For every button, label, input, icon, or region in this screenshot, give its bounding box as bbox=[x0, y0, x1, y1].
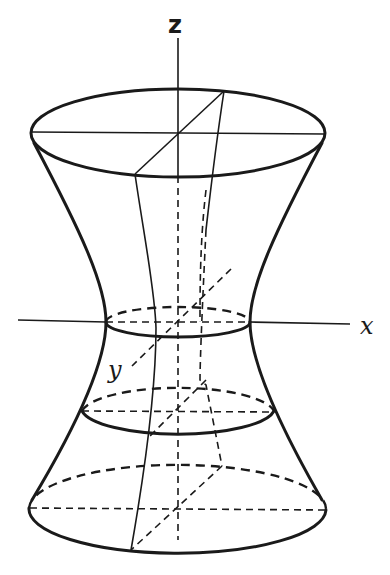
y-axis-label: y bbox=[107, 356, 122, 384]
lower-middle-diameter bbox=[82, 411, 274, 412]
bottom-diameter bbox=[30, 508, 325, 510]
ruling-line-front bbox=[131, 174, 156, 550]
ruling-line-front-top bbox=[206, 91, 224, 230]
x-axis-label: x bbox=[360, 312, 374, 340]
z-axis-label: z bbox=[168, 11, 182, 39]
x-axis-right bbox=[250, 322, 350, 324]
y-axis bbox=[132, 269, 231, 366]
x-axis-left bbox=[18, 320, 106, 322]
hyperboloid-diagram: z x y bbox=[0, 0, 390, 575]
